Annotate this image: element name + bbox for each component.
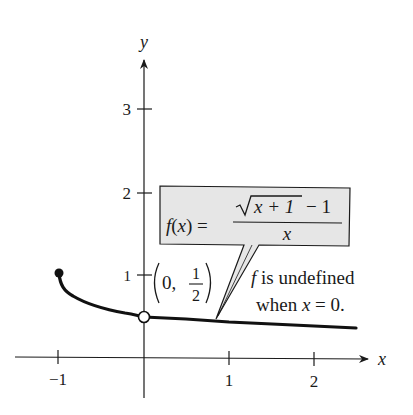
svg-text:2: 2 (192, 287, 200, 304)
svg-text:0,: 0, (162, 272, 176, 293)
y-tick-label-3: 3 (123, 100, 132, 119)
x-axis-label: x (377, 349, 386, 369)
x-tick-label-2: 2 (310, 372, 319, 391)
svg-text:f(x) =: f(x) = (166, 215, 208, 237)
x-tick-label-neg1: −1 (49, 370, 67, 389)
function-graph: −1 1 2 3 2 1 x y f(x) = x + 1 − 1 x 0, 1… (0, 0, 413, 415)
point-label: 0, 1 2 (155, 263, 211, 304)
svg-text:− 1: − 1 (306, 196, 331, 217)
x-axis (15, 357, 368, 359)
closed-endpoint (55, 269, 64, 278)
svg-text:1: 1 (192, 265, 200, 282)
x-tick-label-1: 1 (225, 371, 234, 390)
undefined-note-line1: f is undefined (251, 267, 355, 288)
y-axis-label: y (138, 32, 148, 52)
undefined-note-line2: when x = 0. (256, 294, 345, 315)
y-tick-label-1: 1 (124, 268, 132, 284)
y-tick-label-2: 2 (123, 184, 132, 203)
svg-text:x: x (282, 223, 292, 244)
callout-tail-edge (218, 245, 252, 316)
svg-text:x + 1: x + 1 (253, 196, 294, 217)
open-point (139, 312, 150, 323)
